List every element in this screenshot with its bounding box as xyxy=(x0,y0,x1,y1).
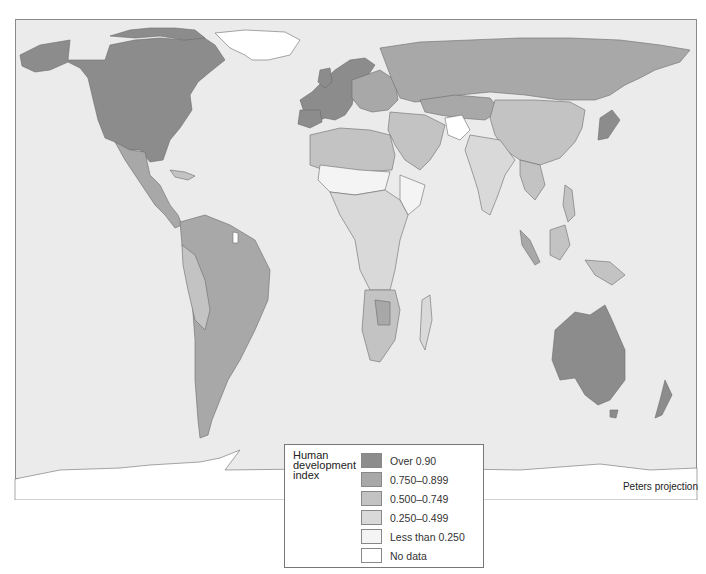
legend-swatch xyxy=(361,491,382,506)
legend-item: Over 0.90 xyxy=(361,451,465,470)
legend-label: Less than 0.250 xyxy=(390,531,465,543)
region-iberia xyxy=(298,110,322,128)
region-french-guiana xyxy=(233,232,238,243)
region-russia xyxy=(380,38,690,102)
region-japan xyxy=(598,110,620,140)
region-botswana xyxy=(375,300,390,325)
legend-swatch xyxy=(361,472,382,487)
region-middle-east xyxy=(388,112,445,170)
legend-item: 0.250–0.499 xyxy=(361,508,465,527)
legend-swatch xyxy=(361,548,382,563)
region-south-america xyxy=(180,215,270,438)
legend-label: 0.250–0.499 xyxy=(390,512,448,524)
legend-label: 0.500–0.749 xyxy=(390,493,448,505)
legend-swatch xyxy=(361,529,382,544)
legend-label: No data xyxy=(390,550,427,562)
legend-title: Human development index xyxy=(293,450,357,480)
region-sumatra xyxy=(520,230,540,265)
legend-label: 0.750–0.899 xyxy=(390,474,448,486)
region-new-guinea xyxy=(585,260,625,285)
legend-item: No data xyxy=(361,546,465,565)
legend-item: 0.500–0.749 xyxy=(361,489,465,508)
legend-item: Less than 0.250 xyxy=(361,527,465,546)
region-philippines xyxy=(563,185,575,222)
region-central-africa xyxy=(330,190,408,290)
region-madagascar xyxy=(420,295,432,350)
legend-items: Over 0.90 0.750–0.899 0.500–0.749 0.250–… xyxy=(361,451,465,565)
world-map xyxy=(15,19,697,479)
region-new-zealand xyxy=(655,380,672,418)
region-greenland xyxy=(215,30,300,60)
projection-label: Peters projection xyxy=(623,481,698,492)
legend-item: 0.750–0.899 xyxy=(361,470,465,489)
region-australia xyxy=(552,305,625,405)
legend: Human development index Over 0.90 0.750–… xyxy=(284,444,484,568)
legend-swatch xyxy=(361,453,382,468)
map-svg xyxy=(0,0,706,500)
legend-swatch xyxy=(361,510,382,525)
region-tasmania xyxy=(610,410,618,418)
region-borneo xyxy=(550,225,570,260)
region-southeast-asia xyxy=(520,160,545,200)
legend-label: Over 0.90 xyxy=(390,455,436,467)
region-caribbean xyxy=(170,170,195,180)
region-north-america xyxy=(20,35,225,162)
